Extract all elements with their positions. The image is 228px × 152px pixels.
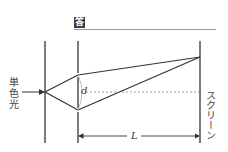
slit-separation-label: d: [81, 85, 87, 96]
double-slit-diagram: 答: [0, 0, 228, 152]
screen-label: スクリーン: [202, 90, 214, 140]
distance-label: L: [129, 130, 140, 141]
diagram-canvas: [0, 0, 228, 152]
rays-source-to-slits: [45, 75, 78, 110]
light-source-label: 単色光: [8, 77, 20, 110]
rays-slits-to-screen: [78, 57, 200, 110]
